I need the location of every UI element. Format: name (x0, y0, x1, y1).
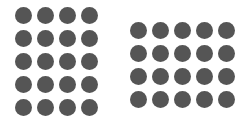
dot-icon (37, 76, 54, 93)
dot-icon (196, 68, 213, 85)
right-dot-grid (130, 22, 235, 108)
dot-icon (196, 91, 213, 108)
dot-icon (218, 22, 235, 39)
dot-icon (37, 30, 54, 47)
dot-icon (81, 30, 98, 47)
dot-icon (81, 7, 98, 24)
dot-icon (174, 45, 191, 62)
dot-icon (37, 7, 54, 24)
dot-icon (152, 22, 169, 39)
dot-icon (59, 7, 76, 24)
dot-icon (81, 53, 98, 70)
dot-icon (174, 22, 191, 39)
dot-icon (81, 99, 98, 116)
dot-icon (196, 22, 213, 39)
dot-icon (15, 76, 32, 93)
dot-icon (152, 45, 169, 62)
dot-icon (15, 30, 32, 47)
dot-icon (15, 7, 32, 24)
dot-icon (130, 68, 147, 85)
dot-icon (130, 45, 147, 62)
dot-icon (218, 91, 235, 108)
dot-icon (218, 45, 235, 62)
dot-icon (130, 22, 147, 39)
dot-icon (174, 91, 191, 108)
dot-icon (59, 53, 76, 70)
dot-icon (196, 45, 213, 62)
left-dot-grid (15, 7, 98, 116)
dot-icon (218, 68, 235, 85)
dot-icon (59, 99, 76, 116)
dot-icon (59, 30, 76, 47)
dot-icon (152, 68, 169, 85)
dot-icon (174, 68, 191, 85)
dot-icon (152, 91, 169, 108)
dot-icon (15, 99, 32, 116)
dot-icon (81, 76, 98, 93)
dot-icon (15, 53, 32, 70)
dot-icon (37, 53, 54, 70)
dot-icon (130, 91, 147, 108)
dot-icon (37, 99, 54, 116)
dot-icon (59, 76, 76, 93)
